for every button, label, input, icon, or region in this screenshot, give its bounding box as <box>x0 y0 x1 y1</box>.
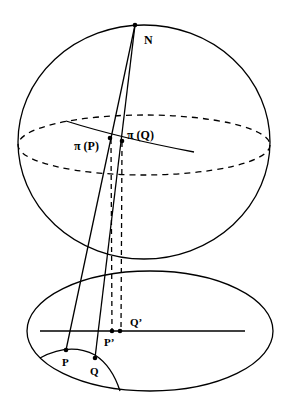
label-pi-q: π (Q) <box>127 128 154 142</box>
dashed-piq-to-qprime <box>121 142 122 331</box>
point-p <box>64 348 69 353</box>
point-n <box>133 23 138 28</box>
line-n-to-q <box>95 25 135 358</box>
equator-dashed <box>18 115 270 175</box>
label-p-prime: P’ <box>104 336 114 348</box>
point-q-prime <box>118 329 123 334</box>
label-q-prime: Q’ <box>130 316 142 328</box>
dashed-pip-to-pprime <box>111 139 112 331</box>
point-pi-p <box>108 136 113 141</box>
label-p: P <box>62 356 69 368</box>
point-pi-q <box>120 139 125 144</box>
label-pi-p: π (P) <box>74 139 99 153</box>
label-n: N <box>144 33 153 47</box>
label-q: Q <box>90 365 99 377</box>
plane-curve <box>40 349 120 391</box>
point-p-prime <box>110 329 115 334</box>
line-n-to-p <box>66 25 135 350</box>
stereographic-projection-diagram: N π (P) π (Q) Q’ P’ P Q <box>0 0 290 410</box>
diagram-canvas: N π (P) π (Q) Q’ P’ P Q <box>0 0 290 410</box>
point-q <box>93 356 98 361</box>
